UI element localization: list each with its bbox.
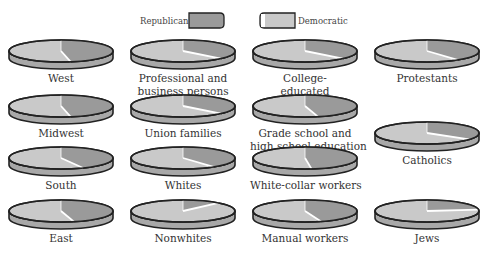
- pie-east: East: [6, 198, 116, 245]
- pie-label: Protestants: [372, 73, 482, 85]
- pie-chart-icon: [6, 145, 116, 179]
- pie-union: Union families: [128, 93, 238, 140]
- pie-grade-school: Grade school and high school education: [250, 93, 360, 152]
- legend-democratic-swatch-icon: [256, 12, 296, 29]
- pie-chart-icon: [128, 93, 238, 127]
- pie-label: Midwest: [6, 128, 116, 140]
- pie-nonwhites: Nonwhites: [128, 198, 238, 245]
- pie-label: South: [6, 180, 116, 192]
- pie-chart-icon: [250, 145, 360, 179]
- pie-chart-icon: [6, 198, 116, 232]
- pie-whites: Whites: [128, 145, 238, 192]
- pie-chart-icon: [250, 198, 360, 232]
- pie-college: College- educated: [250, 38, 360, 97]
- pie-label: Catholics: [372, 155, 482, 167]
- pie-chart-icon: [372, 198, 482, 232]
- pie-label: Grade school and: [250, 128, 360, 140]
- legend-republican-label: Republican: [140, 16, 189, 26]
- pie-professional: Professional and business persons: [128, 38, 238, 97]
- pie-label: East: [6, 233, 116, 245]
- pie-chart-icon: [6, 93, 116, 127]
- pie-west: West: [6, 38, 116, 85]
- pie-label: West: [6, 73, 116, 85]
- pie-label: Nonwhites: [128, 233, 238, 245]
- pie-protestants: Protestants: [372, 38, 482, 85]
- legend: Republican Democratic: [0, 12, 484, 32]
- pie-chart-icon: [250, 93, 360, 127]
- pie-catholics: Catholics: [372, 120, 482, 167]
- pie-chart-icon: [372, 120, 482, 154]
- cropped-caption-fragment: [0, 0, 484, 3]
- pie-label: White-collar workers: [250, 180, 360, 192]
- pie-chart-icon: [6, 38, 116, 72]
- pie-label: Manual workers: [250, 233, 360, 245]
- pie-chart-icon: [250, 38, 360, 72]
- legend-republican-swatch-icon: [188, 12, 226, 29]
- pie-label: Professional and: [128, 73, 238, 85]
- legend-democratic-label: Democratic: [298, 16, 348, 26]
- pie-label: Whites: [128, 180, 238, 192]
- pie-chart-icon: [128, 145, 238, 179]
- pie-south: South: [6, 145, 116, 192]
- pie-label: Jews: [372, 233, 482, 245]
- pie-chart-icon: [128, 198, 238, 232]
- pie-chart-icon: [372, 38, 482, 72]
- pie-midwest: Midwest: [6, 93, 116, 140]
- pie-label: Union families: [128, 128, 238, 140]
- pie-white-collar: White-collar workers: [250, 145, 360, 192]
- pie-jews: Jews: [372, 198, 482, 245]
- pie-label: College-: [250, 73, 360, 85]
- pie-manual: Manual workers: [250, 198, 360, 245]
- pie-chart-icon: [128, 38, 238, 72]
